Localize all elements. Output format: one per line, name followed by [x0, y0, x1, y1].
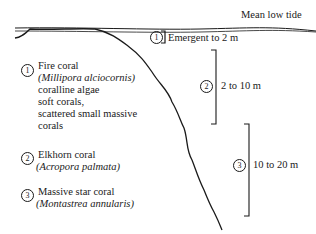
legend-1-line-1: Fire coral: [38, 60, 79, 72]
zone-3-depth: 10 to 20 m: [253, 159, 298, 171]
zone-2-depth: 2 to 10 m: [221, 80, 261, 92]
zone-3-bracket: [244, 124, 249, 216]
legend-1-line-6: corals: [38, 120, 63, 132]
zone-2-marker: 2: [200, 80, 213, 93]
legend-3-marker: 3: [21, 189, 34, 202]
legend-2-marker: 2: [21, 152, 34, 165]
tide-label: Mean low tide: [241, 9, 302, 21]
zone-1-marker: 1: [150, 31, 163, 44]
legend-3-line-2: (Montastrea annularis): [36, 198, 134, 210]
legend-1-line-3: coralline algae: [38, 84, 100, 96]
legend-3-line-1: Massive star coral: [38, 186, 114, 198]
legend-2-line-2: (Acropora palmata): [36, 161, 120, 173]
legend-1-line-4: soft corals,: [38, 96, 84, 108]
zone-3-marker: 3: [233, 159, 246, 172]
legend-1-line-5: scattered small massive: [38, 108, 137, 120]
legend-1-line-2: (Millipora alciocornis): [38, 72, 135, 84]
zone-1-depth: Emergent to 2 m: [168, 32, 238, 44]
legend-1-marker: 1: [21, 64, 34, 77]
legend-2-line-1: Elkhorn coral: [38, 149, 95, 161]
